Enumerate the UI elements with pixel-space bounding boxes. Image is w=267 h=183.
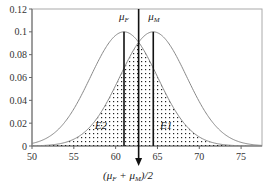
mu-f-label: μF — [118, 10, 130, 24]
y-tick-label: 0.08 — [10, 49, 28, 60]
x-tick-label: 75 — [236, 151, 246, 162]
midpoint-label: (μF + μM)/2 — [103, 169, 153, 183]
y-tick-label: 0.1 — [15, 26, 28, 37]
x-tick-label: 55 — [69, 151, 79, 162]
x-tick-label: 70 — [194, 151, 204, 162]
x-tick-label: 60 — [111, 151, 121, 162]
e1-label: E1 — [159, 119, 172, 131]
arrow-down-icon — [135, 158, 142, 166]
y-tick-label: 0 — [22, 141, 27, 152]
x-tick-label: 65 — [152, 151, 162, 162]
e2-label: E2 — [94, 119, 108, 131]
y-tick-label: 0.12 — [10, 4, 28, 15]
y-tick-label: 0.04 — [10, 95, 28, 106]
chart: 00.020.040.060.080.10.12 505560657075 μF… — [0, 0, 267, 183]
y-ticks: 00.020.040.060.080.10.12 — [10, 4, 33, 152]
y-tick-label: 0.06 — [10, 72, 28, 83]
x-tick-label: 50 — [27, 151, 37, 162]
y-tick-label: 0.02 — [10, 118, 28, 129]
mu-m-label: μM — [147, 10, 161, 24]
overlap-shaded-region — [32, 43, 262, 146]
